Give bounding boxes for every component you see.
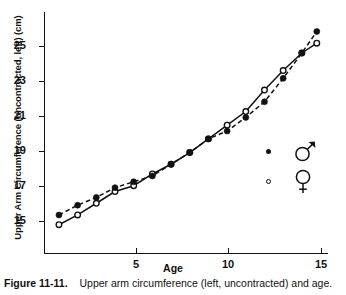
y-tick-label-19: 19 [0, 144, 26, 156]
data-point [75, 212, 81, 218]
data-point [243, 109, 249, 115]
data-point [131, 179, 137, 185]
x-axis-title: Age [0, 262, 346, 274]
figure-caption: Figure 11-11. Upper arm circumference (l… [4, 277, 346, 289]
data-point [299, 50, 305, 56]
data-point [93, 194, 99, 200]
caption-label: Figure 11-11. [4, 277, 68, 289]
open-circle-icon [266, 179, 271, 184]
data-point [280, 75, 286, 81]
caption-text: Upper arm circumference (left, uncontrac… [79, 277, 332, 289]
y-tick-label-21: 21 [0, 109, 26, 121]
legend-item-male [258, 140, 338, 170]
data-point [224, 122, 230, 128]
figure-container: Upper Arm Circumference (uncontracted, l… [0, 0, 346, 295]
data-point [262, 87, 268, 93]
data-point [56, 222, 62, 228]
data-point [224, 128, 230, 134]
data-series-layer [44, 12, 328, 254]
data-point [75, 202, 81, 208]
y-tick-label-23: 23 [0, 74, 26, 86]
data-point [187, 150, 193, 156]
data-point [112, 185, 118, 191]
data-point [280, 68, 286, 74]
data-point [205, 136, 211, 142]
filled-circle-icon [266, 149, 271, 154]
y-tick-label-25: 25 [0, 39, 26, 51]
male-symbol-icon [292, 138, 318, 164]
data-point [168, 161, 174, 167]
data-point [261, 99, 267, 105]
legend [258, 140, 338, 200]
y-tick-label-17: 17 [0, 179, 26, 191]
data-point [94, 200, 100, 206]
data-point [243, 114, 249, 120]
data-point [314, 29, 320, 35]
female-symbol-icon [292, 168, 318, 196]
data-point [56, 212, 62, 218]
y-tick-label-15: 15 [0, 214, 26, 226]
data-point [314, 40, 320, 46]
legend-item-female [258, 170, 338, 200]
data-point [149, 173, 155, 179]
plot-area: 25 23 21 19 17 15 5 10 15 [44, 12, 328, 254]
